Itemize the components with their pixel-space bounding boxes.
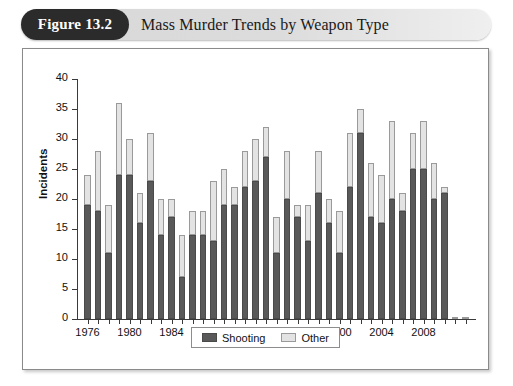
bar-group[interactable] — [284, 151, 290, 319]
bar-group[interactable] — [273, 217, 279, 319]
x-axis-tick-label: 2004 — [369, 326, 393, 338]
x-axis-tick — [277, 320, 278, 324]
bar-segment-other — [168, 199, 174, 217]
y-axis-tick-label: 5 — [62, 281, 68, 293]
bar-group[interactable] — [357, 109, 363, 319]
y-axis-tick: 0 — [72, 319, 77, 320]
y-axis-tick-label: 35 — [56, 101, 68, 113]
bar-group[interactable] — [137, 193, 143, 319]
bar-segment-other — [200, 211, 206, 235]
x-axis-tick — [151, 320, 152, 324]
x-axis-tick — [382, 320, 383, 324]
x-axis-tick — [172, 320, 173, 324]
bar-group[interactable] — [221, 169, 227, 319]
x-axis-tick — [329, 320, 330, 324]
bar-segment-shooting — [336, 253, 342, 319]
x-axis-tick — [319, 320, 320, 324]
bar-group[interactable] — [231, 187, 237, 319]
y-axis-tick-label: 0 — [62, 311, 68, 323]
bar-group[interactable] — [263, 127, 269, 319]
bar-group[interactable] — [179, 235, 185, 319]
x-axis-tick — [361, 320, 362, 324]
bar-segment-shooting — [326, 223, 332, 319]
bar-group[interactable] — [189, 211, 195, 319]
bar-segment-shooting — [252, 181, 258, 319]
bar-group[interactable] — [326, 199, 332, 319]
y-axis-title: Incidents — [37, 149, 49, 199]
bar-group[interactable] — [378, 175, 384, 319]
bar-segment-shooting — [95, 211, 101, 319]
bar-group[interactable] — [242, 151, 248, 319]
bar-group[interactable] — [420, 121, 426, 319]
y-axis-tick-label: 15 — [56, 221, 68, 233]
x-axis-tick — [109, 320, 110, 324]
x-axis-tick — [287, 320, 288, 324]
y-axis-tick: 40 — [72, 79, 77, 80]
x-axis-tick — [424, 320, 425, 324]
bar-group[interactable] — [95, 151, 101, 319]
bar-group[interactable] — [158, 199, 164, 319]
legend-entry[interactable]: Shooting — [202, 332, 265, 344]
bar-group[interactable] — [105, 205, 111, 319]
bar-segment-shooting — [200, 235, 206, 319]
x-axis-tick — [298, 320, 299, 324]
x-axis-tick — [119, 320, 120, 324]
y-axis-tick: 30 — [72, 139, 77, 140]
bar-segment-other — [126, 139, 132, 175]
bar-segment-other — [368, 163, 374, 217]
y-axis-line — [77, 79, 78, 320]
bar-group[interactable] — [399, 193, 405, 319]
legend-entry[interactable]: Other — [281, 332, 329, 344]
x-axis-tick — [182, 320, 183, 324]
bar-segment-shooting — [305, 241, 311, 319]
bar-segment-other — [231, 187, 237, 205]
bar-segment-shooting — [263, 157, 269, 319]
bar-group[interactable] — [431, 163, 437, 319]
bar-segment-other — [137, 193, 143, 223]
bar-segment-shooting — [315, 193, 321, 319]
bar-group[interactable] — [347, 133, 353, 319]
bar-group[interactable] — [252, 139, 258, 319]
bar-group[interactable] — [294, 205, 300, 319]
bar-group[interactable] — [84, 175, 90, 319]
x-axis-tick — [455, 320, 456, 324]
figure-header-banner: Figure 13.2 Mass Murder Trends by Weapon… — [21, 9, 491, 40]
bar-segment-other — [347, 133, 353, 187]
figure-number-badge: Figure 13.2 — [21, 9, 129, 40]
bar-group[interactable] — [389, 121, 395, 319]
legend-swatch-icon — [202, 333, 217, 342]
bar-segment-shooting — [179, 277, 185, 319]
bar-segment-shooting — [399, 211, 405, 319]
x-axis-tick — [235, 320, 236, 324]
bar-segment-other — [399, 193, 405, 211]
bar-group[interactable] — [126, 139, 132, 319]
x-axis-tick — [340, 320, 341, 324]
bar-group[interactable] — [315, 151, 321, 319]
bar-group[interactable] — [200, 211, 206, 319]
bar-group[interactable] — [168, 199, 174, 319]
bar-segment-other — [147, 133, 153, 181]
legend-label: Shooting — [222, 332, 265, 344]
bar-group[interactable] — [210, 181, 216, 319]
bar-group[interactable] — [336, 211, 342, 319]
bar-segment-other — [357, 109, 363, 133]
bar-segment-other — [221, 169, 227, 205]
bar-segment-shooting — [368, 217, 374, 319]
bar-group[interactable] — [441, 187, 447, 319]
bar-segment-other — [210, 181, 216, 241]
bar-segment-shooting — [147, 181, 153, 319]
x-axis-tick — [224, 320, 225, 324]
bar-group[interactable] — [147, 133, 153, 319]
bar-group[interactable] — [368, 163, 374, 319]
bar-segment-other — [273, 217, 279, 253]
bar-segment-other — [84, 175, 90, 205]
bar-segment-shooting — [221, 205, 227, 319]
bar-group[interactable] — [410, 133, 416, 319]
bar-group[interactable] — [305, 205, 311, 319]
x-axis-tick-label: 2008 — [411, 326, 435, 338]
x-axis-tick — [98, 320, 99, 324]
bar-group[interactable] — [116, 103, 122, 319]
x-axis-tick — [413, 320, 414, 324]
y-axis-tick: 5 — [72, 289, 77, 290]
bar-segment-shooting — [231, 205, 237, 319]
